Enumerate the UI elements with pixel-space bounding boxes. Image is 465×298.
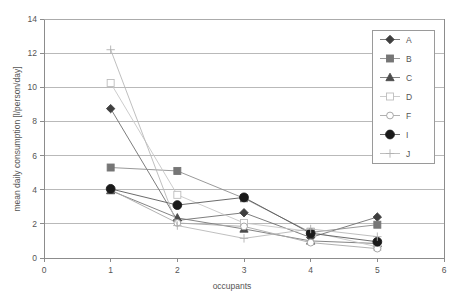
marker-B-x1	[107, 164, 114, 171]
marker-I-x3	[240, 193, 249, 202]
x-tick-label-4: 4	[308, 265, 313, 275]
marker-F-x3	[241, 223, 248, 230]
marker-B-x2	[174, 167, 181, 174]
legend-marker-F	[387, 112, 394, 119]
y-tick-label-6: 6	[32, 151, 37, 161]
marker-D-x2	[174, 191, 181, 198]
x-tick-label-1: 1	[108, 265, 113, 275]
x-tick-label-3: 3	[242, 265, 247, 275]
chart-figure: 0123456 02468101214 ABCDFIJ occupants me…	[0, 0, 465, 298]
marker-I-x2	[173, 201, 182, 210]
y-tick-label-14: 14	[28, 14, 38, 24]
y-tick-label-8: 8	[32, 116, 37, 126]
y-tick-label-2: 2	[32, 219, 37, 229]
x-axis-label: occupants	[213, 281, 252, 291]
legend-label-A: A	[406, 35, 412, 45]
marker-B-x5	[374, 221, 381, 228]
y-tick-label-10: 10	[28, 82, 38, 92]
x-tick-label-6: 6	[442, 265, 447, 275]
marker-I-x1	[106, 184, 115, 193]
legend-label-F: F	[406, 111, 411, 121]
line-chart: 0123456 02468101214 ABCDFIJ occupants me…	[0, 0, 465, 298]
legend-label-B: B	[406, 54, 412, 64]
legend-marker-D	[387, 93, 394, 100]
legend-label-C: C	[406, 73, 412, 83]
x-tick-label-0: 0	[42, 265, 47, 275]
chart-legend: ABCDFIJ	[372, 30, 434, 163]
y-axis-label: mean daily consumption [l/person/day]	[12, 66, 22, 211]
y-tick-label-4: 4	[32, 185, 37, 195]
marker-D-x1	[107, 80, 114, 87]
legend-label-I: I	[406, 130, 408, 140]
legend-label-J: J	[406, 149, 410, 159]
marker-F-x4	[307, 239, 314, 246]
legend-marker-I	[386, 130, 395, 139]
x-tick-label-5: 5	[375, 265, 380, 275]
x-tick-label-2: 2	[175, 265, 180, 275]
y-tick-label-12: 12	[28, 48, 38, 58]
y-tick-label-0: 0	[32, 253, 37, 263]
legend-marker-B	[387, 55, 394, 62]
legend-label-D: D	[406, 92, 412, 102]
